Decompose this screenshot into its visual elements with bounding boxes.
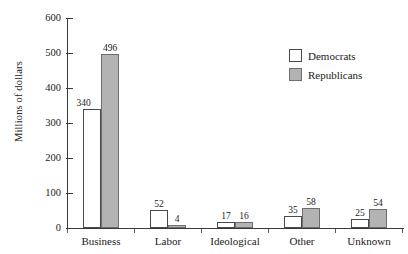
y-axis-label-container: Millions of dollars bbox=[0, 0, 20, 232]
y-tick-label-300: 300 bbox=[21, 116, 61, 129]
bar-unknown-republicans: 54 bbox=[369, 209, 387, 228]
x-category-label-unknown: Unknown bbox=[347, 234, 390, 248]
bar-labor-democrats: 52 bbox=[150, 210, 168, 228]
bar-labor-republicans: 4 bbox=[168, 225, 186, 228]
bar-ideological-republicans: 16 bbox=[235, 222, 253, 228]
bar-unknown-democrats: 25 bbox=[351, 219, 369, 228]
x-category-label-business: Business bbox=[81, 234, 120, 248]
y-tick-500: 500 bbox=[66, 53, 73, 54]
x-axis-line bbox=[67, 228, 404, 229]
bar-value-business-republicans: 496 bbox=[103, 43, 117, 54]
y-tick-300: 300 bbox=[66, 123, 73, 124]
bar-business-republicans: 496 bbox=[101, 54, 119, 228]
y-tick-400: 400 bbox=[66, 88, 73, 89]
y-tick-label-600: 600 bbox=[21, 11, 61, 24]
y-tick-200: 200 bbox=[66, 158, 73, 159]
bar-value-unknown-democrats: 25 bbox=[355, 208, 365, 219]
x-separator-tick bbox=[201, 229, 202, 233]
x-separator-tick bbox=[134, 229, 135, 233]
bar-value-other-democrats: 35 bbox=[288, 205, 298, 216]
x-category-label-ideological: Ideological bbox=[210, 234, 259, 248]
bar-other-republicans: 58 bbox=[302, 208, 320, 228]
y-tick-label-0: 0 bbox=[21, 221, 61, 234]
x-separator-tick bbox=[268, 229, 269, 233]
legend: Democrats Republicans bbox=[289, 47, 362, 85]
bar-value-labor-democrats: 52 bbox=[154, 199, 164, 210]
bar-value-ideological-republicans: 16 bbox=[239, 211, 249, 222]
bar-ideological-democrats: 17 bbox=[217, 222, 235, 228]
gray-square-swatch-icon bbox=[289, 68, 302, 81]
bar-other-democrats: 35 bbox=[284, 216, 302, 228]
bar-business-democrats: 340 bbox=[83, 109, 101, 228]
y-tick-label-100: 100 bbox=[21, 186, 61, 199]
legend-item-democrats: Democrats bbox=[289, 47, 362, 64]
y-tick-label-500: 500 bbox=[21, 46, 61, 59]
x-category-label-other: Other bbox=[289, 234, 314, 248]
y-tick-100: 100 bbox=[66, 193, 73, 194]
legend-item-republicans: Republicans bbox=[289, 66, 362, 83]
x-separator-tick bbox=[402, 229, 403, 233]
x-separator-tick bbox=[335, 229, 336, 233]
bar-value-other-republicans: 58 bbox=[306, 197, 316, 208]
y-tick-600: 600 bbox=[66, 18, 73, 19]
y-tick-label-400: 400 bbox=[21, 81, 61, 94]
bar-value-labor-republicans: 4 bbox=[175, 214, 180, 225]
bar-chart: Millions of dollars 0 100 200 300 400 50… bbox=[0, 0, 408, 254]
white-square-swatch-icon bbox=[289, 49, 302, 62]
bar-value-ideological-democrats: 17 bbox=[221, 211, 231, 222]
legend-label-republicans: Republicans bbox=[308, 68, 362, 82]
bar-value-unknown-republicans: 54 bbox=[373, 198, 383, 209]
x-separator-tick bbox=[67, 229, 68, 233]
bar-value-business-democrats: 340 bbox=[77, 98, 91, 109]
y-tick-label-200: 200 bbox=[21, 151, 61, 164]
legend-label-democrats: Democrats bbox=[308, 49, 356, 63]
x-category-label-labor: Labor bbox=[155, 234, 181, 248]
